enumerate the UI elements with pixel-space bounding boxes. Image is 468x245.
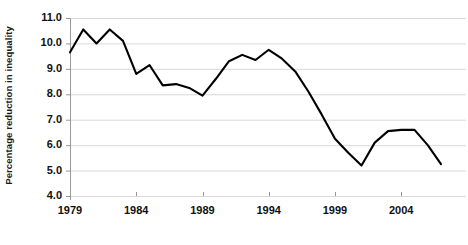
x-tick-label: 2004	[371, 205, 431, 216]
x-tick-label: 1984	[106, 205, 166, 216]
x-axis-tick-labels: 197919841989199419992004	[0, 0, 468, 245]
x-tick-label: 1999	[305, 205, 365, 216]
x-tick-label: 1989	[173, 205, 233, 216]
x-tick-label: 1994	[239, 205, 299, 216]
x-tick-label: 1979	[40, 205, 100, 216]
line-chart: Percentage reduction in inequality 11.01…	[0, 0, 468, 245]
